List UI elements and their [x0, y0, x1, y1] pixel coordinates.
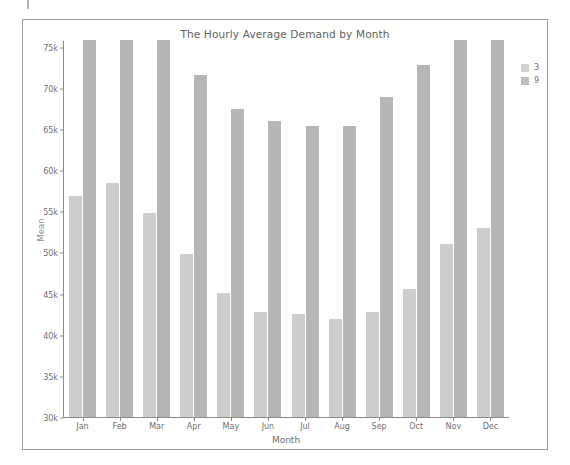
- x-axis-label: Month: [63, 435, 509, 445]
- bar-group: Jun: [249, 41, 286, 417]
- x-tick-label: Oct: [409, 422, 423, 431]
- bar: [417, 65, 430, 417]
- y-tick-mark: [60, 376, 63, 377]
- x-tick-label: Nov: [446, 422, 462, 431]
- legend-swatch-icon: [521, 64, 529, 72]
- x-tick-label: Dec: [483, 422, 498, 431]
- bar: [120, 40, 133, 417]
- bar: [83, 40, 96, 417]
- y-tick-label: 75k: [43, 43, 58, 52]
- x-tick-label: Aug: [334, 422, 350, 431]
- chart-title: The Hourly Average Demand by Month: [23, 28, 547, 40]
- y-tick-label: 50k: [43, 249, 58, 258]
- legend-item[interactable]: 9: [521, 74, 555, 87]
- x-tick-mark: [305, 417, 306, 421]
- y-tick-mark: [60, 335, 63, 336]
- bar: [329, 319, 342, 417]
- bar-group: Dec: [472, 41, 509, 417]
- y-tick-mark: [60, 129, 63, 130]
- bar: [491, 40, 504, 417]
- x-tick-mark: [83, 417, 84, 421]
- x-tick-mark: [120, 417, 121, 421]
- y-tick-mark: [60, 212, 63, 213]
- chart-figure: The Hourly Average Demand by Month Mean …: [22, 19, 548, 450]
- bar: [217, 293, 230, 417]
- x-tick-mark: [231, 417, 232, 421]
- x-tick-label: Apr: [187, 422, 201, 431]
- bar: [366, 312, 379, 417]
- bar: [403, 289, 416, 417]
- bar: [143, 213, 156, 417]
- bar: [440, 244, 453, 417]
- chart-screenshot: The Hourly Average Demand by Month Mean …: [0, 0, 570, 465]
- bar-group: Mar: [138, 41, 175, 417]
- y-tick-mark: [60, 47, 63, 48]
- x-tick-mark: [194, 417, 195, 421]
- bar-group: Feb: [101, 41, 138, 417]
- y-tick-mark: [60, 253, 63, 254]
- legend-label: 9: [534, 76, 539, 85]
- x-tick-label: Feb: [113, 422, 127, 431]
- x-tick-mark: [490, 417, 491, 421]
- bar-groups: JanFebMarAprMayJunJulAugSepOctNovDec: [64, 41, 509, 417]
- bar-group: Nov: [435, 41, 472, 417]
- bar: [180, 254, 193, 417]
- bar-group: Jan: [64, 41, 101, 417]
- bar: [343, 126, 356, 417]
- x-tick-label: Mar: [149, 422, 164, 431]
- x-tick-label: May: [223, 422, 240, 431]
- y-tick-label: 30k: [43, 414, 58, 423]
- x-tick-mark: [342, 417, 343, 421]
- x-tick-mark: [453, 417, 454, 421]
- y-tick-label: 45k: [43, 290, 58, 299]
- bar: [157, 40, 170, 417]
- x-tick-mark: [416, 417, 417, 421]
- y-tick-label: 70k: [43, 84, 58, 93]
- bar: [231, 109, 244, 417]
- bar: [477, 228, 490, 417]
- x-tick-label: Jul: [300, 422, 310, 431]
- y-tick-label: 65k: [43, 125, 58, 134]
- x-tick-label: Jan: [76, 422, 88, 431]
- bar: [454, 40, 467, 417]
- x-axis-line: [63, 417, 509, 418]
- bar-group: Jul: [286, 41, 323, 417]
- bar-group: May: [212, 41, 249, 417]
- legend-label: 3: [534, 63, 539, 72]
- bar: [69, 196, 82, 417]
- legend-item[interactable]: 3: [521, 61, 555, 74]
- y-tick-label: 35k: [43, 372, 58, 381]
- x-tick-label: Sep: [372, 422, 387, 431]
- bar: [306, 126, 319, 417]
- y-tick-label: 40k: [43, 331, 58, 340]
- x-tick-mark: [157, 417, 158, 421]
- chart-legend: 39: [521, 61, 555, 87]
- bar: [254, 312, 267, 417]
- y-tick-label: 60k: [43, 167, 58, 176]
- y-tick-mark: [60, 294, 63, 295]
- y-tick-mark: [60, 171, 63, 172]
- x-tick-mark: [268, 417, 269, 421]
- image-artifact-mark: [27, 0, 29, 9]
- bar: [194, 75, 207, 417]
- bar-group: Oct: [398, 41, 435, 417]
- x-tick-mark: [379, 417, 380, 421]
- y-tick-mark: [60, 418, 63, 419]
- bar-group: Sep: [361, 41, 398, 417]
- y-axis-label: Mean: [36, 218, 46, 241]
- bar: [268, 121, 281, 417]
- y-tick-mark: [60, 88, 63, 89]
- bar: [292, 314, 305, 417]
- x-tick-label: Jun: [262, 422, 275, 431]
- y-tick-label: 55k: [43, 208, 58, 217]
- bar: [106, 183, 119, 417]
- bar-group: Aug: [324, 41, 361, 417]
- legend-swatch-icon: [521, 77, 529, 85]
- bar: [380, 97, 393, 417]
- bar-group: Apr: [175, 41, 212, 417]
- plot-area: Mean 30k35k40k45k50k55k60k65k70k75k JanF…: [63, 41, 509, 418]
